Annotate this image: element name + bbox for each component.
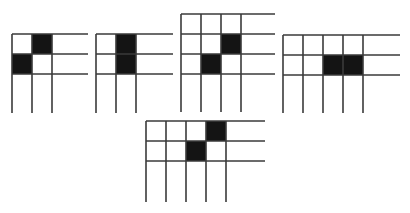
shaded-cell (116, 54, 136, 74)
shaded-cell (12, 54, 32, 74)
grid-4 (283, 35, 400, 113)
shaded-cell (201, 54, 221, 74)
shaded-cell (186, 141, 206, 161)
grid-1 (12, 34, 88, 113)
shaded-cell (206, 121, 226, 141)
shaded-cell (343, 55, 363, 75)
shaded-cell (32, 34, 52, 54)
shaded-cell (323, 55, 343, 75)
grid-5 (146, 121, 265, 202)
shaded-cell (221, 34, 241, 54)
grid-3 (181, 14, 275, 112)
grid-diagram-canvas (0, 0, 410, 213)
shaded-cell (116, 34, 136, 54)
grid-2 (96, 34, 173, 113)
